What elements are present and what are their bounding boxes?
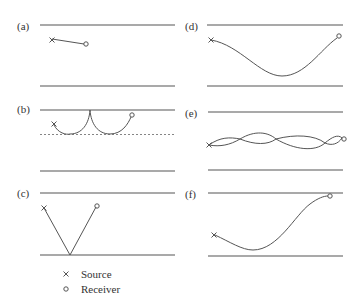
ray-path-lower bbox=[209, 138, 342, 149]
refracted-ray-path bbox=[215, 196, 328, 250]
panel-label-a: (a) bbox=[17, 20, 30, 33]
panel-d: (d) bbox=[185, 20, 343, 86]
refracted-ray-path bbox=[211, 38, 337, 76]
panel-f: (f) bbox=[185, 188, 343, 256]
source-icon bbox=[42, 206, 47, 211]
receiver-icon bbox=[95, 204, 99, 208]
bottom-reflected-ray bbox=[44, 207, 96, 255]
ray-path-diagram: (a) (b) (c) (d) (e) bbox=[0, 0, 361, 307]
legend-source-label: Source bbox=[81, 268, 112, 280]
receiver-icon bbox=[342, 137, 346, 141]
refracted-surface-bounce-ray bbox=[54, 110, 131, 134]
panel-label-d: (d) bbox=[185, 20, 198, 33]
legend: Source Receiver bbox=[64, 268, 121, 295]
panel-c: (c) bbox=[17, 187, 175, 255]
panel-label-b: (b) bbox=[17, 103, 30, 116]
legend-source-icon bbox=[64, 272, 69, 277]
source-icon bbox=[50, 38, 55, 43]
panel-label-f: (f) bbox=[185, 188, 196, 201]
legend-receiver-label: Receiver bbox=[81, 283, 120, 295]
panel-b: (b) bbox=[17, 103, 175, 171]
legend-receiver-icon bbox=[64, 287, 68, 291]
panel-label-e: (e) bbox=[185, 107, 198, 120]
panel-label-c: (c) bbox=[17, 187, 30, 200]
panel-a: (a) bbox=[17, 20, 175, 86]
receiver-icon bbox=[130, 113, 134, 117]
direct-ray-path bbox=[52, 39, 84, 44]
panel-e: (e) bbox=[185, 107, 346, 170]
receiver-icon bbox=[84, 42, 88, 46]
receiver-icon bbox=[328, 194, 332, 198]
receiver-icon bbox=[337, 34, 341, 38]
